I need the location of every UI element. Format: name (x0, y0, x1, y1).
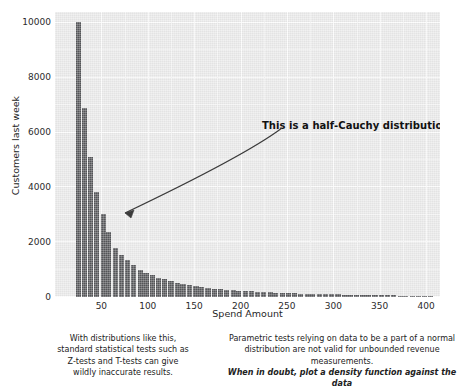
bar (236, 291, 241, 297)
y-tick-label: 2000 (0, 238, 51, 247)
bar (255, 292, 260, 297)
bar (187, 285, 192, 297)
caption-emphasis: When in doubt, plot a density function a… (222, 367, 462, 389)
bar (193, 286, 198, 297)
bar (410, 296, 415, 297)
bar (205, 288, 210, 297)
bar (391, 295, 396, 297)
bar (310, 294, 315, 297)
caption-line: measurements. (222, 356, 462, 367)
caption-left: With distributions like this,standard st… (30, 333, 216, 378)
y-tick-label: 4000 (0, 183, 51, 192)
bar (101, 214, 106, 297)
bar (224, 290, 229, 297)
bar (168, 281, 173, 297)
bar (113, 248, 118, 297)
caption-line: Z-tests and T-tests can give (30, 356, 216, 367)
bar (212, 289, 217, 297)
bar (280, 293, 285, 297)
bar (342, 295, 347, 297)
chart-annotation: This is a half-Cauchy distribution. (262, 120, 440, 131)
bar (231, 290, 236, 297)
bar (398, 296, 403, 297)
caption-line: standard statistical tests such as (30, 344, 216, 355)
bar (94, 192, 99, 297)
bar (422, 296, 427, 297)
bar (329, 294, 334, 297)
caption-line: wildly inaccurate results. (30, 367, 216, 378)
plot-panel: This is a half-Cauchy distribution. (55, 12, 440, 297)
bar (243, 291, 248, 297)
bar (286, 293, 291, 297)
bar (360, 295, 365, 297)
bar (323, 294, 328, 297)
bar (88, 157, 93, 297)
y-tick-label: 6000 (0, 128, 51, 137)
x-axis-label: Spend Amount (55, 308, 440, 319)
caption-line: distribution are not valid for unbounded… (222, 344, 462, 355)
bar (76, 22, 81, 297)
caption-right: Parametric tests relying on data to be a… (222, 333, 462, 389)
bar (249, 291, 254, 297)
y-axis-label: Customers last week (10, 66, 21, 226)
bar (199, 287, 204, 297)
bar (125, 260, 130, 297)
bar (403, 296, 408, 297)
caption-area: With distributions like this,standard st… (0, 328, 466, 382)
bar (428, 296, 433, 297)
bar (150, 275, 155, 297)
bar (131, 265, 136, 297)
chart-figure: This is a half-Cauchy distribution. 0200… (0, 0, 466, 320)
bar (268, 292, 273, 297)
bar (218, 289, 223, 297)
bar (82, 108, 87, 297)
bar (138, 270, 143, 297)
bar (366, 295, 371, 297)
bar (335, 294, 340, 297)
bar (372, 295, 377, 297)
bar (416, 296, 421, 297)
bar (354, 295, 359, 297)
bar (292, 293, 297, 297)
bar (175, 283, 180, 297)
caption-line: With distributions like this, (30, 333, 216, 344)
bar (261, 292, 266, 297)
caption-line: Parametric tests relying on data to be a… (222, 333, 462, 344)
bar (273, 293, 278, 297)
bar (385, 295, 390, 297)
bar (156, 278, 161, 297)
bar (106, 232, 111, 297)
bar-series (55, 12, 440, 297)
bar (119, 255, 124, 297)
y-tick-label: 0 (0, 293, 51, 302)
bar (180, 284, 185, 297)
bar (379, 295, 384, 297)
y-tick-label: 8000 (0, 73, 51, 82)
bar (143, 273, 148, 297)
bar (305, 294, 310, 297)
bar (347, 295, 352, 297)
y-tick-label: 10000 (0, 18, 51, 27)
bar (298, 294, 303, 298)
bar (317, 294, 322, 297)
bar (162, 279, 167, 297)
